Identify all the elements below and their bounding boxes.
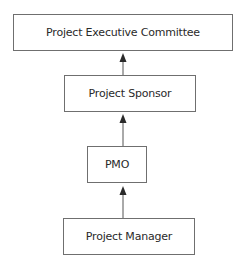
node-project-executive-committee: Project Executive Committee bbox=[13, 14, 233, 51]
node-label: Project Manager bbox=[86, 230, 172, 243]
node-label: Project Sponsor bbox=[89, 87, 172, 100]
arrow-sponsor-to-exec bbox=[120, 53, 127, 75]
node-label: PMO bbox=[105, 158, 129, 171]
arrow-pmo-to-sponsor bbox=[120, 114, 127, 146]
arrow-pm-to-pmo bbox=[120, 186, 127, 218]
node-label: Project Executive Committee bbox=[46, 26, 200, 39]
node-project-manager: Project Manager bbox=[63, 218, 195, 255]
node-project-sponsor: Project Sponsor bbox=[64, 75, 196, 112]
node-pmo: PMO bbox=[87, 146, 147, 183]
